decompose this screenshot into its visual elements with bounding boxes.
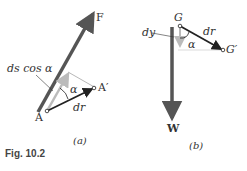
label-w: W <box>167 123 179 134</box>
label-alpha-a: α <box>70 84 77 95</box>
point-g-prime <box>221 48 225 52</box>
label-f: F <box>96 12 104 23</box>
label-g-prime: G′ <box>226 44 237 55</box>
label-alpha-b: α <box>188 39 195 50</box>
point-g <box>178 24 182 28</box>
angle-arc-alpha-a <box>60 88 68 99</box>
label-g: G <box>174 12 183 23</box>
point-a-prime <box>92 86 96 90</box>
point-a <box>45 109 49 113</box>
figure-caption: Fig. 10.2 <box>5 148 45 159</box>
leader-line-a <box>36 75 53 91</box>
label-a: A <box>35 112 43 123</box>
label-dr-a: dr <box>73 102 85 113</box>
label-ds-cos-alpha: ds cos α <box>7 63 53 74</box>
sublabel-a: (a) <box>73 136 87 146</box>
label-dr-b: dr <box>203 26 215 37</box>
label-a-prime: A′ <box>98 82 108 93</box>
label-dy: dy <box>142 27 155 38</box>
sublabel-b: (b) <box>189 141 203 151</box>
